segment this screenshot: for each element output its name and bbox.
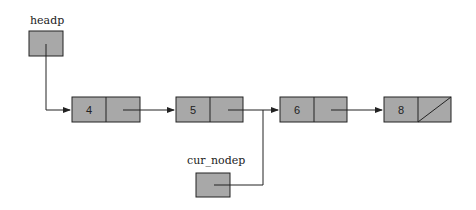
headp-label: headp xyxy=(30,14,64,27)
headp-pointer: headp xyxy=(29,14,64,56)
list-node: 8 xyxy=(384,97,451,122)
node-value: 6 xyxy=(294,104,300,116)
node-value: 4 xyxy=(86,104,92,116)
diagram-canvas: headp 4 5 6 8 cur_nodep xyxy=(0,0,476,210)
node-value: 8 xyxy=(398,104,404,116)
cur-nodep-label: cur_nodep xyxy=(187,154,245,167)
cur-nodep-pointer: cur_nodep xyxy=(187,154,245,197)
node-value: 5 xyxy=(190,104,196,116)
linked-list-diagram: headp 4 5 6 8 cur_nodep xyxy=(0,0,476,210)
